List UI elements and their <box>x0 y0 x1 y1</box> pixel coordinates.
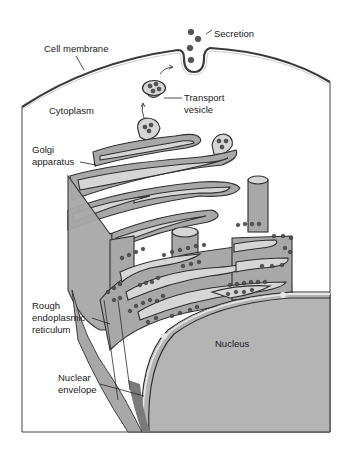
label-rough-er-3: reticulum <box>32 324 71 335</box>
label-transport-vesicle-2: vesicle <box>184 104 213 115</box>
secretion-leader <box>206 30 212 34</box>
label-transport-vesicle-1: Transport <box>184 92 225 103</box>
label-nuclear-envelope-1: Nuclear <box>58 372 91 383</box>
transport-vesicle <box>141 65 173 118</box>
secretion-granules <box>187 29 201 63</box>
label-golgi-1: Golgi <box>32 144 54 155</box>
label-rough-er-2: endoplasmic <box>32 312 86 323</box>
label-cytoplasm: Cytoplasm <box>49 105 94 116</box>
cell-secretion-diagram: Secretion Cell membrane Cytoplasm Transp… <box>0 0 344 449</box>
label-golgi-2: apparatus <box>32 156 75 167</box>
label-nuclear-envelope-2: envelope <box>58 384 97 395</box>
cell-membrane-leader <box>76 56 84 70</box>
label-nucleus: Nucleus <box>215 338 250 349</box>
label-cell-membrane: Cell membrane <box>44 43 108 54</box>
label-rough-er-1: Rough <box>32 300 60 311</box>
label-secretion: Secretion <box>214 28 254 39</box>
cell-membrane <box>22 48 330 109</box>
golgi-leader <box>80 162 96 165</box>
